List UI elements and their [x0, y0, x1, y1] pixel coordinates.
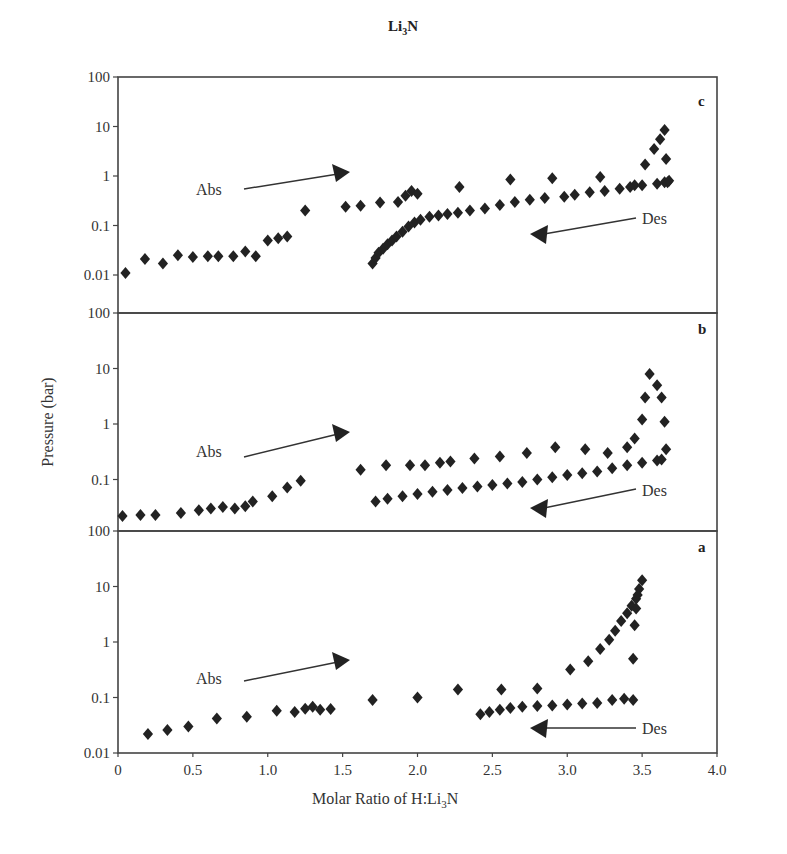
data-point-des [510, 196, 520, 208]
data-point-abs [300, 703, 310, 715]
y-tick-label: 0.1 [91, 472, 110, 488]
x-tick-label: 1.5 [333, 762, 352, 778]
y-tick-label: 1 [103, 168, 111, 184]
data-point-abs [367, 694, 377, 706]
panel-label: b [698, 321, 706, 337]
data-point-abs [375, 197, 385, 209]
y-tick-label: 1 [103, 634, 111, 650]
data-point-abs [272, 705, 282, 717]
panel-a: 1001010.10.01aAbsDes [84, 523, 717, 761]
data-point-abs [661, 443, 671, 455]
data-point-abs [282, 481, 292, 493]
y-tick-label: 0.01 [84, 745, 110, 761]
data-point-des [453, 207, 463, 219]
data-point-abs [659, 416, 669, 428]
data-point-abs [652, 379, 662, 391]
data-point-des [370, 496, 380, 508]
data-point-des [592, 465, 602, 477]
data-point-abs [604, 634, 614, 646]
data-point-des [607, 462, 617, 474]
data-point-des [532, 700, 542, 712]
data-point-abs [532, 683, 542, 695]
data-point-des [622, 459, 632, 471]
x-tick-label: 2.0 [408, 762, 427, 778]
data-point-des [607, 694, 617, 706]
data-point-abs [412, 692, 422, 704]
data-point-abs [630, 432, 640, 444]
data-point-des [457, 482, 467, 494]
data-point-des [427, 486, 437, 498]
data-point-abs [326, 703, 336, 715]
data-point-abs [183, 721, 193, 733]
data-point-abs [242, 711, 252, 723]
data-point-abs [640, 392, 650, 404]
data-point-abs [453, 683, 463, 695]
x-axis-label: Molar Ratio of H:Li3N [312, 790, 458, 810]
data-point-des [585, 186, 595, 198]
data-point-abs [188, 251, 198, 263]
data-point-abs [583, 655, 593, 667]
data-point-des [619, 693, 629, 705]
data-point-abs [454, 181, 464, 193]
panel-label: c [698, 93, 705, 109]
y-tick-label: 10 [95, 579, 110, 595]
data-point-des [562, 469, 572, 481]
data-point-abs [162, 724, 172, 736]
data-point-abs [550, 441, 560, 453]
arrow-right-icon [332, 424, 350, 442]
x-tick-label: 1.0 [258, 762, 277, 778]
data-point-des [472, 480, 482, 492]
y-tick-label: 100 [88, 69, 111, 85]
arrow-left-icon [530, 499, 548, 518]
data-point-abs [176, 507, 186, 519]
x-tick-label: 0.5 [184, 762, 203, 778]
data-point-abs [522, 447, 532, 459]
data-point-abs [273, 232, 283, 244]
data-point-abs [628, 653, 638, 665]
data-point-abs [595, 643, 605, 655]
data-point-abs [150, 509, 160, 521]
data-point-abs [547, 172, 557, 184]
data-point-des [424, 211, 434, 223]
panel-label: a [698, 539, 706, 555]
abs-annotation: Abs [196, 670, 222, 687]
abs-annotation: Abs [196, 443, 222, 460]
data-point-des [412, 488, 422, 500]
data-point-abs [143, 728, 153, 740]
data-point-abs [630, 619, 640, 631]
data-point-abs [203, 250, 213, 262]
data-point-abs [637, 414, 647, 426]
panel-b: 1001010.1bAbsDes [88, 305, 718, 531]
data-point-abs [158, 258, 168, 270]
data-point-abs [656, 392, 666, 404]
data-point-abs [640, 159, 650, 171]
data-point-abs [445, 456, 455, 468]
data-point-des [532, 474, 542, 486]
data-point-des [465, 205, 475, 217]
data-point-abs [140, 253, 150, 265]
data-point-des [637, 179, 647, 191]
y-axis-label: Pressure (bar) [39, 352, 57, 492]
data-point-des [570, 189, 580, 201]
y-tick-label: 0.01 [84, 267, 110, 283]
data-point-des [547, 699, 557, 711]
data-point-abs [603, 447, 613, 459]
y-tick-label: 0.1 [91, 218, 110, 234]
y-tick-label: 100 [88, 523, 111, 539]
arrow-left-icon [530, 719, 548, 738]
data-point-des [577, 697, 587, 709]
data-point-abs [355, 200, 365, 212]
panel-c: 1001010.10.01cAbsDes [84, 69, 717, 313]
data-point-abs [230, 503, 240, 515]
chart-canvas: 1001010.10.01cAbsDes1001010.1bAbsDes1001… [0, 0, 787, 854]
data-point-des [540, 192, 550, 204]
des-annotation: Des [642, 482, 667, 499]
data-point-abs [610, 625, 620, 637]
data-point-des [433, 209, 443, 221]
data-point-abs [469, 452, 479, 464]
data-point-abs [649, 143, 659, 155]
data-point-abs [173, 249, 183, 261]
data-point-abs [496, 683, 506, 695]
data-point-abs [505, 173, 515, 185]
data-point-abs [282, 230, 292, 242]
